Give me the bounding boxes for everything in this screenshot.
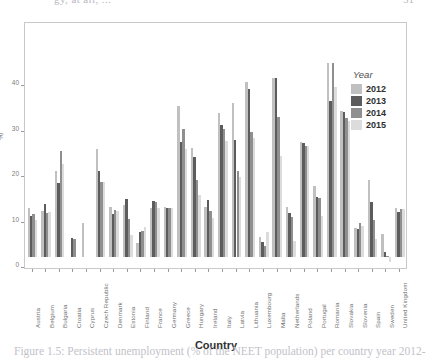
x-axis-tick: [32, 269, 33, 272]
x-axis-tick: [249, 269, 250, 272]
x-tick-label: Lithuania: [252, 302, 259, 328]
bar-group: [395, 23, 405, 268]
x-tick-label: Spain: [374, 312, 381, 328]
x-tick-label: Netherlands: [293, 294, 300, 328]
x-axis-tick: [127, 269, 128, 272]
caption-text: Figure 1.5: Persistent unemployment (% o…: [14, 346, 425, 357]
legend-item-2014[interactable]: 2014: [351, 107, 421, 118]
legend-label: 2013: [366, 96, 386, 106]
legend-swatch-icon: [351, 96, 362, 106]
bar: [116, 211, 118, 257]
bar-group: [368, 23, 378, 268]
bar: [157, 208, 159, 257]
bar-group: [340, 23, 350, 268]
bar: [321, 216, 323, 257]
x-axis-tick: [140, 269, 141, 272]
bar: [73, 239, 75, 257]
bar: [62, 164, 64, 257]
x-axis-tick: [372, 269, 373, 272]
x-axis-tick: [358, 269, 359, 272]
bar-group: [245, 23, 255, 268]
x-tick-label: Germany: [170, 302, 177, 328]
bar-group: [204, 23, 214, 268]
bar-group: [300, 23, 310, 268]
x-axis-tick: [113, 269, 114, 272]
x-axis-tick: [304, 269, 305, 272]
bar: [130, 235, 132, 257]
x-axis-tick: [290, 269, 291, 272]
y-axis-tick: 0: [0, 267, 24, 268]
x-axis-tick: [195, 269, 196, 272]
y-axis-tick: 30: [0, 131, 24, 132]
x-tick-label: Romania: [333, 303, 340, 328]
legend-item-2013[interactable]: 2013: [351, 95, 421, 106]
x-axis-tick: [168, 269, 169, 272]
legend-item-2015[interactable]: 2015: [351, 119, 421, 130]
x-axis-tick: [45, 269, 46, 272]
x-tick-label: Italy: [225, 316, 232, 328]
bar-group: [96, 23, 106, 268]
bar-group: [150, 23, 160, 268]
bar-group: [164, 23, 174, 268]
bar: [144, 227, 146, 257]
bar-group: [259, 23, 269, 268]
bar: [225, 141, 227, 257]
x-axis-tick: [154, 269, 155, 272]
bar: [35, 220, 37, 257]
bar: [198, 195, 200, 257]
x-tick-label: United Kingdom: [401, 283, 408, 328]
x-axis-tick: [263, 269, 264, 272]
x-tick-label: Austria: [34, 308, 41, 328]
bar-group: [286, 23, 296, 268]
legend-item-2012[interactable]: 2012: [351, 83, 421, 94]
y-axis-tick: 20: [0, 176, 24, 177]
x-tick-label: Ireland: [211, 308, 218, 328]
legend-swatch-icon: [351, 84, 362, 94]
bar-group: [218, 23, 228, 268]
x-axis-tick: [399, 269, 400, 272]
legend-swatch-icon: [351, 120, 362, 130]
x-axis-tick: [100, 269, 101, 272]
x-tick-label: Portugal: [320, 304, 327, 328]
y-tick-label: 0: [15, 261, 19, 268]
bar: [82, 223, 84, 257]
legend-swatch-icon: [351, 108, 362, 118]
x-tick-label: Croatia: [75, 307, 82, 328]
bar-group: [28, 23, 38, 268]
x-axis-tick: [277, 269, 278, 272]
x-axis-tick: [208, 269, 209, 272]
bar: [171, 208, 173, 257]
y-axis-tick: 10: [0, 222, 24, 223]
legend-label: 2014: [366, 108, 386, 118]
x-tick-label: Greece: [184, 307, 191, 328]
y-axis: 010203040: [0, 22, 24, 269]
bar-group: [136, 23, 146, 268]
legend-label: 2015: [366, 120, 386, 130]
bar: [280, 156, 282, 257]
x-axis-tick: [86, 269, 87, 272]
bar-group: [313, 23, 323, 268]
legend: Year 2012201320142015: [351, 69, 421, 131]
bar: [375, 239, 377, 257]
bar: [402, 209, 404, 257]
figure-caption-bleed: Figure 1.5: Persistent unemployment (% o…: [0, 346, 432, 363]
x-axis-tick: [59, 269, 60, 272]
bar: [389, 257, 391, 262]
x-tick-label: Sweden: [388, 305, 395, 328]
bar: [185, 149, 187, 257]
x-axis-tick-labels: AustriaBelgiumBulgariaCroatiaCyprusCzech…: [24, 274, 407, 330]
bar: [348, 121, 350, 257]
bar: [266, 232, 268, 257]
x-tick-label: Estonia: [129, 307, 136, 328]
y-tick-label: 20: [12, 170, 19, 177]
bar: [48, 212, 50, 258]
x-tick-label: Cyprus: [88, 308, 95, 328]
bar-group: [68, 23, 78, 268]
y-axis-label: %: [0, 133, 5, 140]
bar: [253, 138, 255, 257]
x-tick-label: Slovakia: [347, 304, 354, 328]
x-tick-label: Malta: [279, 312, 286, 328]
plot-area: [25, 23, 406, 268]
x-axis-tick: [181, 269, 182, 272]
bar: [334, 87, 336, 257]
